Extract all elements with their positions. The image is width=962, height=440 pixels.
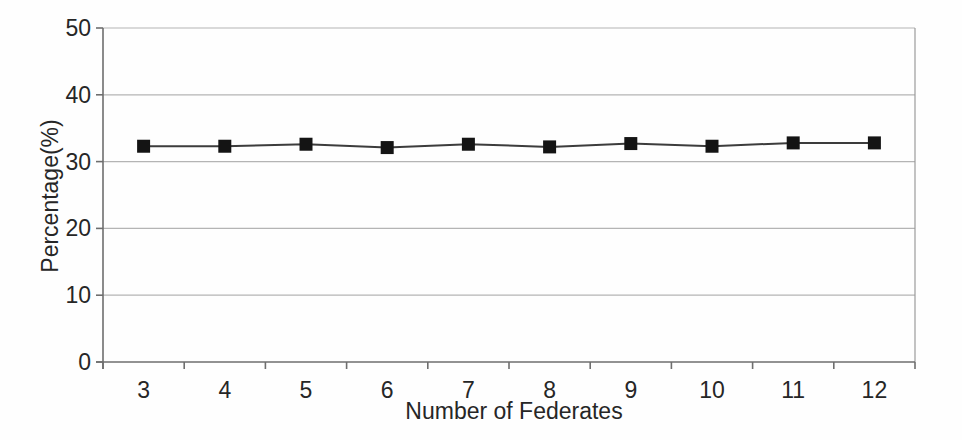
- data-series-layer: [137, 136, 881, 154]
- axes-layer: [96, 28, 915, 369]
- x-tick-label: 3: [137, 377, 150, 403]
- y-tick-label: 30: [65, 149, 91, 175]
- data-point-marker: [137, 140, 150, 153]
- data-point-marker: [543, 140, 556, 153]
- x-tick-label: 12: [862, 377, 888, 403]
- gridlines-layer: [103, 28, 915, 362]
- tick-labels-layer: 010203040503456789101112: [65, 15, 887, 403]
- data-point-marker: [868, 136, 881, 149]
- y-tick-label: 0: [78, 349, 91, 375]
- x-tick-label: 5: [300, 377, 313, 403]
- data-point-marker: [462, 138, 475, 151]
- y-tick-label: 20: [65, 215, 91, 241]
- line-chart-figure: 010203040503456789101112 Number of Feder…: [0, 0, 962, 440]
- x-tick-label: 4: [218, 377, 231, 403]
- x-tick-label: 11: [781, 377, 805, 403]
- y-tick-label: 50: [65, 15, 91, 41]
- data-point-marker: [706, 140, 719, 153]
- x-axis-title: Number of Federates: [405, 398, 622, 424]
- y-axis-title: Percentage(%): [37, 119, 63, 272]
- x-tick-label: 6: [381, 377, 394, 403]
- x-tick-label: 10: [699, 377, 725, 403]
- y-tick-label: 40: [65, 82, 91, 108]
- data-point-marker: [218, 140, 231, 153]
- y-tick-label: 10: [65, 282, 91, 308]
- data-point-marker: [381, 141, 394, 154]
- chart-svg: 010203040503456789101112 Number of Feder…: [0, 0, 962, 440]
- x-tick-label: 9: [624, 377, 637, 403]
- data-point-marker: [300, 138, 313, 151]
- data-point-marker: [624, 137, 637, 150]
- series-line: [144, 143, 875, 148]
- data-point-marker: [787, 136, 800, 149]
